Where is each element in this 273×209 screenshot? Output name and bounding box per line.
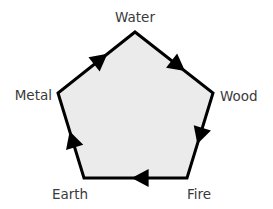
node-label-water: Water	[115, 9, 155, 25]
node-label-wood: Wood	[220, 88, 258, 104]
node-label-earth: Earth	[52, 186, 88, 202]
node-label-metal: Metal	[15, 87, 52, 103]
five-elements-diagram: Water Wood Fire Earth Metal	[0, 0, 273, 209]
node-label-fire: Fire	[187, 186, 211, 202]
pentagon-shape	[58, 32, 213, 178]
